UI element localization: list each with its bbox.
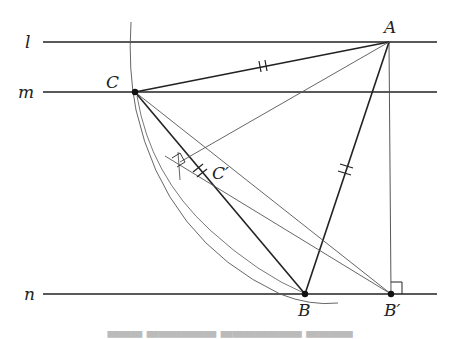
label-B: B bbox=[297, 300, 311, 320]
figure-caption-cropped: ▀▀▀ ▀▀▀▀▀▀ ▀▀▀▀▀▀▀ ▀▀▀▀ bbox=[0, 331, 460, 339]
segment-AC bbox=[135, 42, 389, 92]
label-Bp: B′ bbox=[383, 300, 400, 320]
label-Cp: C′ bbox=[212, 163, 229, 183]
label-A: A bbox=[382, 17, 396, 37]
label-line-l: l bbox=[25, 32, 30, 52]
arc bbox=[130, 22, 338, 304]
label-line-m: m bbox=[18, 82, 34, 102]
segment-A-Cp bbox=[180, 42, 389, 162]
equal-mark-AB bbox=[338, 164, 353, 175]
geometry-figure: l m n A C C′ B B′ bbox=[0, 0, 460, 339]
segment-C-Bp bbox=[135, 92, 391, 294]
segment-CB bbox=[135, 92, 305, 294]
segment-AB bbox=[305, 42, 389, 294]
perpendicular-A-Bp bbox=[389, 42, 391, 294]
point-B bbox=[302, 291, 308, 297]
label-line-n: n bbox=[24, 284, 35, 304]
point-C bbox=[132, 89, 138, 95]
segment-Cp-B bbox=[165, 156, 391, 294]
point-Bp bbox=[388, 291, 394, 297]
label-C: C bbox=[106, 72, 119, 92]
